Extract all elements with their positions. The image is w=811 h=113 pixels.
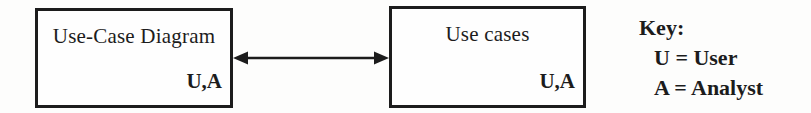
double-arrow-connector (233, 49, 389, 67)
node-use-case-diagram: Use-Case Diagram U,A (35, 8, 233, 108)
node-use-cases: Use cases U,A (389, 6, 586, 108)
diagram-canvas: Use-Case Diagram U,A Use cases U,A Key: … (0, 0, 811, 113)
node-use-case-diagram-roles: U,A (186, 69, 222, 94)
key-legend: Key: U = User A = Analyst (639, 13, 763, 103)
node-use-case-diagram-title: Use-Case Diagram (38, 24, 230, 49)
key-entry-analyst: A = Analyst (639, 73, 763, 103)
key-title: Key: (639, 13, 763, 43)
key-entry-user: U = User (639, 43, 763, 73)
node-use-cases-roles: U,A (539, 69, 575, 94)
node-use-cases-title: Use cases (392, 22, 583, 47)
